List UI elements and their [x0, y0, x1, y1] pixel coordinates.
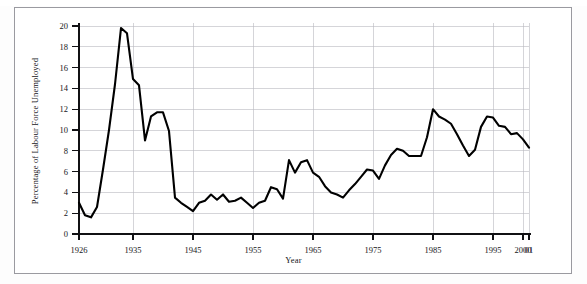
x-tick-label: 1926: [71, 245, 88, 255]
x-tick-label: 1965: [305, 245, 322, 255]
tick-marks: [72, 26, 529, 240]
y-tick-label: 12: [60, 104, 69, 114]
y-tick-labels: 02468101214161820: [60, 21, 69, 239]
line-chart: 02468101214161820 1926193519451955196519…: [15, 8, 571, 273]
gridlines: [79, 23, 529, 234]
y-axis-title: Percentage of Labour Force Unemployed: [30, 51, 40, 211]
x-tick-label: 01: [525, 245, 534, 255]
x-tick-label: 1955: [245, 245, 262, 255]
y-tick-label: 18: [60, 42, 69, 52]
x-tick-label: 1995: [485, 245, 502, 255]
y-tick-label: 6: [64, 167, 68, 177]
x-tick-labels: 19261935194519551965197519851995200001: [71, 245, 534, 255]
figure-container: 02468101214161820 1926193519451955196519…: [0, 0, 587, 284]
x-tick-label: 1975: [365, 245, 382, 255]
axes: [79, 23, 531, 234]
y-tick-label: 16: [60, 63, 69, 73]
x-tick-label: 1985: [425, 245, 442, 255]
y-tick-label: 14: [60, 83, 69, 93]
y-tick-label: 20: [60, 21, 69, 31]
y-tick-label: 10: [60, 125, 69, 135]
y-tick-label: 2: [64, 208, 68, 218]
y-tick-label: 4: [64, 187, 69, 197]
y-tick-label: 0: [64, 229, 68, 239]
series-line: [79, 28, 529, 217]
x-tick-label: 1945: [185, 245, 202, 255]
chart-frame: 02468101214161820 1926193519451955196519…: [14, 7, 572, 274]
y-tick-label: 8: [64, 146, 68, 156]
data-series: [79, 28, 529, 217]
x-axis-title: Year: [0, 255, 587, 265]
scan-ghost-sliver: [0, 0, 587, 6]
x-tick-label: 1935: [125, 245, 142, 255]
